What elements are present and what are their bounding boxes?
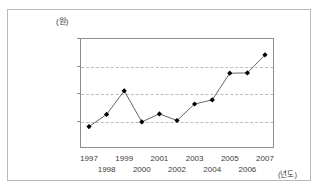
line-series [80,38,274,148]
x-tick-label: 1998 [98,165,116,174]
x-tick-label: 2004 [203,165,221,174]
data-point-marker [139,119,144,124]
data-point-marker [210,97,215,102]
data-point-marker [157,111,162,116]
x-tick-label: 2005 [221,154,239,163]
data-point-marker [227,71,232,76]
x-tick-label: 2002 [168,165,186,174]
x-tick-label: 2003 [186,154,204,163]
x-tick-label: 2006 [238,165,256,174]
x-tick-label: 1999 [115,154,133,163]
x-tick-label: 2001 [150,154,168,163]
series-line [89,55,265,127]
data-point-marker [86,124,91,129]
x-tick-label: 2000 [133,165,151,174]
chart-screenshot: (원) 10,00020,00030,00040,000 19971998199… [0,0,320,191]
x-tick-label: 2007 [256,154,274,163]
x-tick-label: 1997 [80,154,98,163]
x-axis-title: (년도) [278,168,297,179]
